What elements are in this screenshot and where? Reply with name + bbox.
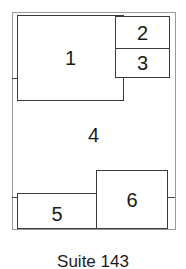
room-3-label: 3 (137, 53, 148, 73)
diagram-caption: Suite 143 (0, 252, 186, 269)
room-5-label: 5 (51, 204, 62, 224)
wall-tick-right-lower (167, 197, 175, 198)
room-4-label: 4 (88, 125, 99, 145)
room-3: 3 (115, 48, 170, 78)
wall-tick-left-upper (12, 78, 17, 79)
room-4: 4 (12, 100, 175, 170)
room-1: 1 (17, 15, 124, 101)
room-6-label: 6 (126, 190, 137, 210)
room-2: 2 (115, 16, 170, 49)
room-1-label: 1 (65, 48, 76, 68)
room-2-label: 2 (137, 23, 148, 43)
room-6: 6 (96, 170, 168, 229)
room-5: 5 (17, 193, 97, 229)
